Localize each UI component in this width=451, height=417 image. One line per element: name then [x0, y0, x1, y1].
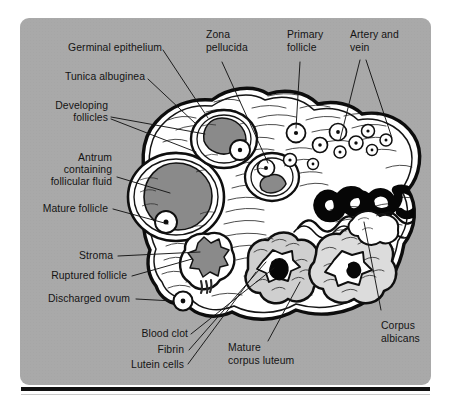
oocyte-mature-follicle	[155, 211, 177, 233]
label-artery-and-vein-line1: Artery and	[350, 29, 430, 41]
primary-follicle	[334, 146, 346, 158]
ovary-body	[128, 88, 436, 319]
oocyte-developing-upper	[230, 140, 250, 160]
label-mature-follicle: Mature follicle	[8, 203, 108, 215]
label-blood-clot: Blood clot	[100, 328, 188, 340]
figure-root: Germinal epithelium Tunica albuginea Dev…	[0, 0, 451, 417]
label-stroma: Stroma	[20, 250, 113, 262]
primary-follicle	[349, 136, 363, 150]
label-developing-follicles-line2: follicles	[10, 112, 108, 124]
label-antrum-line1: Antrum	[8, 152, 112, 164]
label-corpus-albicans-line2: albicans	[381, 333, 445, 345]
label-antrum-line3: follicular fluid	[8, 176, 112, 188]
primary-follicle	[284, 154, 297, 167]
label-discharged-ovum: Discharged ovum	[8, 293, 130, 305]
primary-follicle	[308, 159, 319, 170]
footer-rule	[21, 387, 430, 391]
label-ruptured-follicle: Ruptured follicle	[14, 270, 127, 282]
label-developing-follicles-line1: Developing	[10, 100, 108, 112]
label-mature-corpus-luteum-line1: Mature	[228, 342, 332, 354]
label-fibrin: Fibrin	[100, 344, 184, 356]
label-primary-follicle-line2: follicle	[287, 42, 349, 54]
footer-rule-thin	[21, 394, 430, 395]
label-mature-corpus-luteum-line2: corpus luteum	[228, 355, 332, 367]
discharged-ovum	[174, 292, 193, 311]
developing-follicle-upper	[191, 110, 257, 168]
primary-follicle	[380, 134, 392, 146]
label-lutein-cells: Lutein cells	[98, 359, 184, 371]
label-primary-follicle-line1: Primary	[287, 29, 349, 41]
label-tunica-albuginea: Tunica albuginea	[10, 71, 145, 83]
label-artery-and-vein-line2: vein	[350, 42, 430, 54]
primary-follicle	[313, 138, 328, 153]
label-corpus-albicans-line1: Corpus	[381, 320, 445, 332]
primary-follicle	[367, 145, 378, 156]
label-antrum-line2: containing	[8, 164, 112, 176]
label-germinal-epithelium: Germinal epithelium	[10, 42, 162, 54]
label-zona-pellucida-line1: Zona	[206, 29, 276, 41]
label-zona-pellucida-line2: pellucida	[206, 42, 276, 54]
primary-follicle	[362, 125, 375, 138]
